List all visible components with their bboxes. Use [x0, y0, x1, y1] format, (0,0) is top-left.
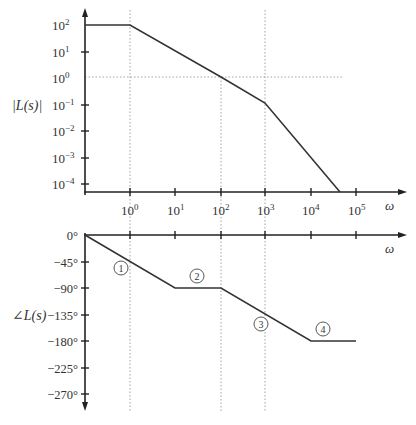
phase-plot: 0° −45° −90° −135° −180° −225° −270° ∠L(…: [12, 229, 407, 411]
svg-text:102: 102: [52, 17, 70, 33]
svg-text:3: 3: [259, 319, 264, 330]
magnitude-curve: [85, 25, 340, 192]
svg-text:10−3: 10−3: [52, 150, 75, 166]
phase-x-label: ω: [385, 241, 394, 256]
svg-text:10−4: 10−4: [52, 176, 75, 192]
phase-y-tick-labels: 0° −45° −90° −135° −180° −225° −270°: [47, 229, 78, 402]
phase-x-axis-arrow: [398, 232, 407, 238]
svg-text:−90°: −90°: [53, 282, 78, 296]
svg-text:10−2: 10−2: [52, 123, 75, 139]
mag-x-axis-arrow: [398, 189, 407, 195]
mag-y-axis-arrow: [82, 8, 88, 17]
svg-text:10−1: 10−1: [52, 97, 75, 113]
x-tick-labels: 100 101 102 103 104 105: [121, 202, 366, 218]
marker-2: 2: [190, 269, 204, 283]
svg-text:−270°: −270°: [47, 388, 78, 402]
svg-text:100: 100: [121, 202, 139, 218]
svg-text:103: 103: [257, 202, 275, 218]
mag-y-label: |L(s)|: [12, 98, 42, 114]
marker-3: 3: [254, 317, 268, 331]
svg-text:102: 102: [212, 202, 230, 218]
svg-text:100: 100: [52, 70, 70, 86]
svg-text:101: 101: [167, 202, 185, 218]
bode-plot: 102 101 100 10−1 10−2 10−3 10−4 |L(s)| ω…: [0, 0, 416, 425]
svg-text:101: 101: [52, 44, 70, 60]
mag-y-tick-labels: 102 101 100 10−1 10−2 10−3 10−4: [52, 17, 75, 192]
svg-text:−45°: −45°: [53, 256, 78, 270]
svg-text:2: 2: [195, 271, 200, 282]
mag-x-label: ω: [385, 198, 394, 213]
svg-text:−135°: −135°: [47, 309, 78, 323]
svg-text:105: 105: [348, 202, 366, 218]
svg-text:1: 1: [119, 263, 124, 274]
svg-text:−225°: −225°: [47, 362, 78, 376]
svg-text:104: 104: [302, 202, 320, 218]
svg-text:4: 4: [321, 324, 326, 335]
marker-4: 4: [316, 322, 330, 336]
phase-y-label: ∠L(s): [12, 308, 47, 324]
phase-curve: [85, 235, 356, 341]
svg-text:0°: 0°: [67, 229, 78, 243]
phase-y-axis-arrow: [82, 402, 88, 411]
svg-text:−180°: −180°: [47, 335, 78, 349]
marker-1: 1: [114, 261, 128, 275]
